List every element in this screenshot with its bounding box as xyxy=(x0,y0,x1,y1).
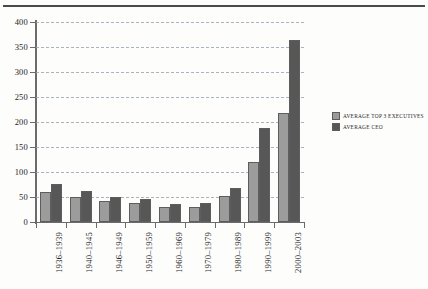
bar xyxy=(140,199,151,223)
bar-group xyxy=(244,22,274,222)
x-tick-mark xyxy=(96,223,97,228)
y-tick-label: 150 xyxy=(2,142,28,152)
bar xyxy=(219,196,230,223)
x-tick-label: 2000–2003 xyxy=(293,232,303,273)
x-tick-label: 1936–1939 xyxy=(54,232,64,273)
legend-swatch-icon xyxy=(332,123,340,131)
bar xyxy=(230,188,241,222)
bar xyxy=(289,40,300,223)
bar xyxy=(248,162,259,222)
bar xyxy=(159,207,170,222)
x-tick-mark xyxy=(66,223,67,228)
x-tick-label: 1940–1945 xyxy=(84,232,94,273)
bar-group xyxy=(125,22,155,222)
y-tick-label: 250 xyxy=(2,92,28,102)
bar xyxy=(278,113,289,222)
x-tick-label: 1990–1999 xyxy=(263,232,273,273)
bar-group xyxy=(274,22,304,222)
bar xyxy=(81,191,92,222)
bar-group xyxy=(155,22,185,222)
bar xyxy=(99,201,110,222)
x-tick-mark xyxy=(125,223,126,228)
x-tick-label: 1960–1969 xyxy=(174,232,184,273)
legend-item: AVERAGE TOP 3 EXECUTIVES xyxy=(332,112,428,120)
legend-swatch-icon xyxy=(332,112,340,120)
x-tick-mark xyxy=(244,223,245,228)
bar-group xyxy=(66,22,96,222)
bar xyxy=(129,203,140,222)
bar xyxy=(40,192,51,222)
x-tick-label: 1980–1989 xyxy=(233,232,243,273)
bar-group xyxy=(185,22,215,222)
top-rule-divider xyxy=(3,5,425,7)
bar-group xyxy=(215,22,245,222)
bar xyxy=(189,207,200,223)
y-tick-label: 0 xyxy=(2,217,28,227)
bar xyxy=(110,197,121,222)
x-tick-mark xyxy=(304,223,305,228)
legend-label: AVERAGE CEO xyxy=(343,124,383,130)
y-tick-label: 100 xyxy=(2,167,28,177)
x-tick-mark xyxy=(155,223,156,228)
y-tick-label: 350 xyxy=(2,42,28,52)
bar xyxy=(200,203,211,222)
x-tick-mark xyxy=(36,223,37,228)
bar xyxy=(51,184,62,223)
y-tick-label: 50 xyxy=(2,192,28,202)
plot-area xyxy=(36,22,304,222)
chart-legend: AVERAGE TOP 3 EXECUTIVESAVERAGE CEO xyxy=(332,112,428,134)
y-tick-label: 400 xyxy=(2,17,28,27)
y-tick-label: 300 xyxy=(2,67,28,77)
x-tick-mark xyxy=(215,223,216,228)
bar-group xyxy=(96,22,126,222)
legend-label: AVERAGE TOP 3 EXECUTIVES xyxy=(343,113,424,119)
x-tick-label: 1970–1979 xyxy=(203,232,213,273)
bar xyxy=(70,197,81,222)
x-tick-label: 1946–1949 xyxy=(114,232,124,273)
bar-chart-figure: 050100150200250300350400 1936–19391940–1… xyxy=(0,0,428,289)
x-axis-line xyxy=(35,222,305,223)
x-tick-mark xyxy=(185,223,186,228)
legend-item: AVERAGE CEO xyxy=(332,123,428,131)
bar xyxy=(170,204,181,223)
x-tick-mark xyxy=(274,223,275,228)
bar xyxy=(259,128,270,223)
bar-group xyxy=(36,22,66,222)
x-tick-label: 1950–1959 xyxy=(144,232,154,273)
y-tick-label: 200 xyxy=(2,117,28,127)
y-axis-tick-labels: 050100150200250300350400 xyxy=(0,0,28,289)
